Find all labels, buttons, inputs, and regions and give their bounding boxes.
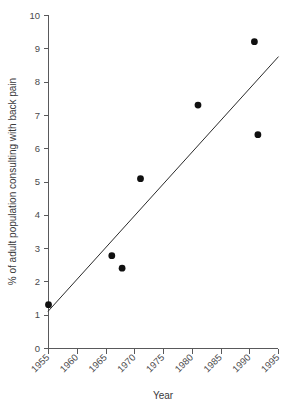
- y-axis-ticks: [44, 16, 49, 349]
- x-tick-label: 1955: [29, 352, 52, 375]
- x-tick-label: 1990: [230, 352, 253, 375]
- y-tick-label: 1: [35, 309, 40, 320]
- x-tick-label: 1970: [115, 352, 138, 375]
- x-tick-label: 1960: [57, 352, 80, 375]
- x-tick-label: 1985: [201, 352, 224, 375]
- y-tick-label: 3: [35, 243, 40, 254]
- y-axis-tick-labels: 0 1 2 3 4 5 6 7 8 9 10: [29, 10, 40, 354]
- y-tick-label: 6: [35, 143, 40, 154]
- x-tick-label: 1975: [144, 352, 167, 375]
- y-tick-label: 7: [35, 110, 40, 121]
- x-axis-tick-labels: 1955 1960 1965 1970 1975 1980 1985 1990 …: [29, 352, 282, 375]
- chart-container: 0 1 2 3 4 5 6 7 8 9 10 1955 1960: [0, 0, 294, 412]
- scatter-plot-svg: 0 1 2 3 4 5 6 7 8 9 10 1955 1960: [0, 0, 294, 412]
- data-point: [108, 252, 115, 259]
- x-tick-label: 1980: [172, 352, 195, 375]
- y-tick-label: 8: [35, 76, 40, 87]
- y-tick-label: 10: [29, 10, 40, 21]
- data-point: [195, 102, 202, 109]
- x-axis-title: Year: [153, 390, 174, 401]
- y-tick-label: 9: [35, 43, 40, 54]
- x-tick-label: 1995: [259, 352, 282, 375]
- y-tick-label: 4: [35, 209, 40, 220]
- data-point: [255, 131, 262, 138]
- trend-line: [48, 57, 279, 312]
- data-points: [45, 38, 261, 308]
- y-axis-title: % of adult population consulting with ba…: [7, 78, 18, 285]
- data-point: [119, 265, 126, 272]
- data-point: [45, 301, 52, 308]
- y-tick-label: 5: [35, 176, 40, 187]
- data-point: [137, 175, 144, 182]
- y-tick-label: 0: [35, 343, 40, 354]
- x-tick-label: 1965: [86, 352, 109, 375]
- y-tick-label: 2: [35, 276, 40, 287]
- data-point: [251, 38, 258, 45]
